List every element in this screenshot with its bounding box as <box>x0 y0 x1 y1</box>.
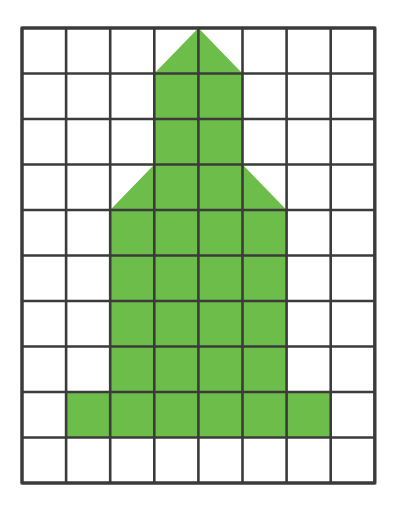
grid-shape-figure <box>0 0 402 508</box>
figure-root <box>0 0 402 508</box>
